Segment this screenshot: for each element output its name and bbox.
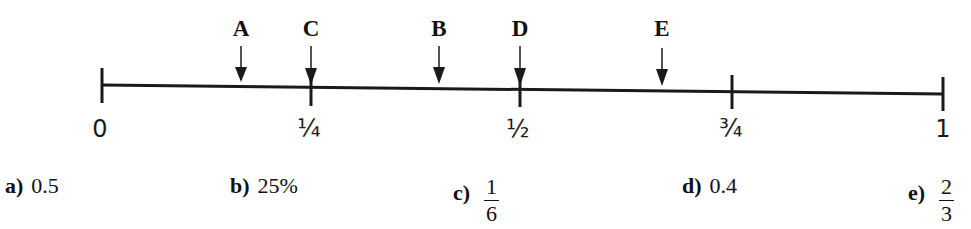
option-fraction: 2 3 (939, 176, 954, 225)
tick-label-1: 1 (935, 117, 950, 141)
option-letter: e) (908, 182, 925, 204)
option-b[interactable]: b) 25% (230, 175, 298, 197)
arrow-d-icon (514, 46, 526, 86)
option-a[interactable]: a) 0.5 (5, 175, 59, 197)
option-value: 0.5 (31, 175, 59, 197)
marker-label-b: B (431, 17, 446, 40)
tick-label-0: 0 (92, 117, 107, 141)
tick-label-three-quarters: ¾ (719, 117, 742, 141)
arrow-b-icon (433, 46, 445, 84)
option-fraction: 1 6 (484, 176, 499, 225)
option-d[interactable]: d) 0.4 (682, 175, 737, 197)
arrow-e-icon (656, 48, 668, 86)
tick-label-quarter: ¼ (297, 117, 320, 141)
marker-label-c: C (303, 17, 320, 40)
fraction-numerator: 2 (939, 176, 954, 201)
fraction-denominator: 3 (941, 201, 952, 225)
fraction-numerator: 1 (484, 176, 499, 201)
option-e[interactable]: e) 2 3 (908, 168, 954, 217)
arrow-a-icon (235, 46, 247, 82)
marker-label-a: A (233, 17, 250, 40)
option-letter: a) (5, 175, 23, 197)
number-line-axis (102, 85, 943, 94)
option-letter: d) (682, 175, 702, 197)
option-value: 0.4 (710, 175, 738, 197)
option-c[interactable]: c) 1 6 (453, 168, 499, 217)
fraction-denominator: 6 (486, 201, 497, 225)
option-letter: c) (453, 182, 470, 204)
arrow-c-icon (305, 46, 317, 85)
tick-label-half: ½ (506, 117, 529, 141)
marker-label-e: E (654, 17, 669, 40)
marker-label-d: D (512, 17, 529, 40)
option-letter: b) (230, 175, 250, 197)
option-value: 25% (258, 175, 298, 197)
